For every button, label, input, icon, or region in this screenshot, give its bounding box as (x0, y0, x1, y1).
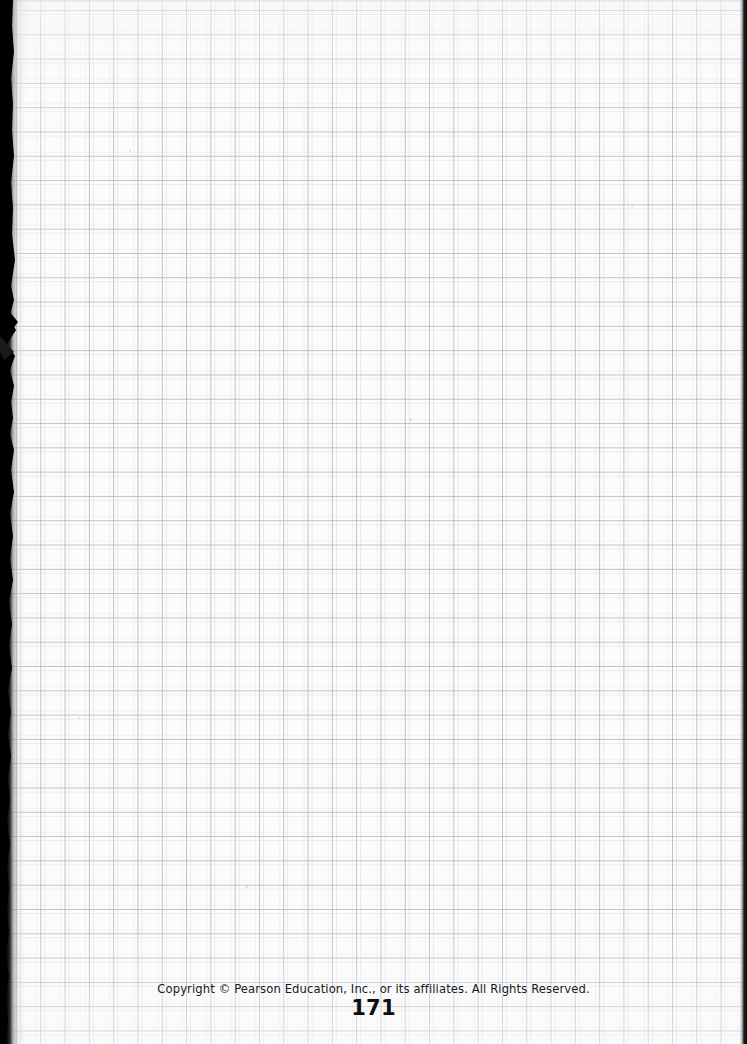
paper-surface (0, 0, 747, 1044)
scanned-page: Copyright © Pearson Education, Inc., or … (0, 0, 747, 1044)
